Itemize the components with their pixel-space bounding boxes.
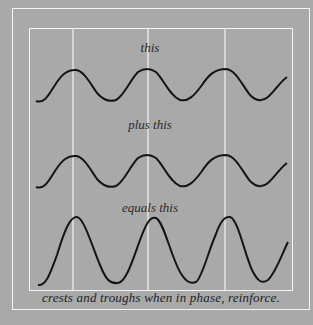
wave-this	[36, 69, 287, 102]
wave-plus-this	[36, 155, 287, 188]
wave-equals-this	[38, 217, 288, 285]
label-this: this	[125, 40, 175, 56]
label-plus-this: plus this	[105, 117, 195, 133]
label-equals-this: equals this	[100, 200, 200, 216]
caption: crests and troughs when in phase, reinfo…	[12, 290, 310, 306]
